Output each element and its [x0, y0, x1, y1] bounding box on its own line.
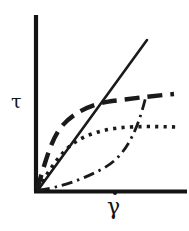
- curve-dilatant: [39, 96, 146, 190]
- curve-pseudoplastic: [38, 127, 180, 189]
- curve-newtonian: [38, 40, 147, 190]
- curve-bingham-plastic: [37, 94, 174, 189]
- chart-figure: τ γ: [0, 0, 189, 231]
- plot-canvas: [0, 0, 189, 231]
- x-axis-label: γ: [107, 196, 120, 218]
- y-axis-label: τ: [11, 92, 22, 111]
- x-axis-label-glyph: γ: [107, 196, 120, 218]
- overdot-icon: [113, 191, 117, 195]
